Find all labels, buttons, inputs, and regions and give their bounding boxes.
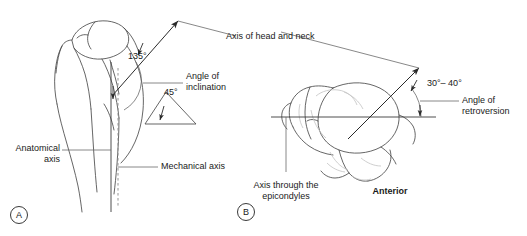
panel-b-faint-outline: [299, 90, 381, 180]
humerus-axes-figure: Axis of head and neck 135° Angle of incl…: [0, 0, 527, 236]
label-axis-through-epicondyles-line1: Axis through the: [236, 180, 336, 191]
axis-head-neck-arrow-b: [348, 68, 419, 139]
panel-b-bone-outline: [282, 83, 416, 181]
retroversion-arc-arrow-upper: [411, 80, 417, 91]
label-axis-of-head-and-neck: Axis of head and neck: [226, 31, 315, 42]
label-anatomical-axis-line2: axis: [0, 154, 60, 165]
label-angle-of-retroversion-line1: Angle of: [462, 95, 495, 106]
label-anterior: Anterior: [350, 186, 430, 197]
panel-b-axes: [271, 32, 459, 172]
label-mechanical-axis: Mechanical axis: [161, 161, 225, 172]
label-angle-of-inclination-line1: Angle of: [186, 71, 219, 82]
panel-marker-a: A: [10, 206, 28, 224]
label-angle-inclination-value: 135°: [128, 51, 147, 62]
label-axis-through-epicondyles-line2: epicondyles: [236, 191, 336, 202]
label-angle-of-inclination-line2: inclination: [186, 82, 226, 93]
label-angle-45-value: 45°: [164, 87, 178, 98]
panel-marker-b: B: [237, 203, 255, 221]
panel-a-bone-outline: [55, 21, 144, 212]
label-anatomical-axis-line1: Anatomical: [0, 143, 60, 154]
panel-a-axes: [111, 21, 178, 212]
label-retroversion-range: 30°– 40°: [427, 78, 462, 89]
label-angle-of-retroversion-line2: retroversion: [462, 106, 510, 117]
